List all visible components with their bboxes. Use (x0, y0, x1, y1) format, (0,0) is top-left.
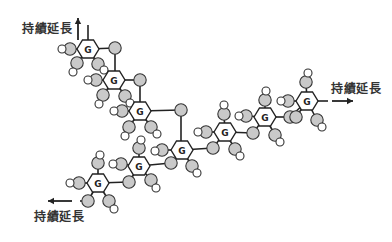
gray-residue (82, 195, 94, 207)
gray-residue (71, 57, 83, 69)
white-residue (152, 184, 160, 192)
gray-residue (109, 42, 121, 54)
white-residue (95, 100, 103, 108)
gray-residue (259, 94, 271, 106)
white-residue (96, 151, 104, 159)
elongation-label-bottom-left: 持績延長 (34, 207, 84, 224)
white-residue (58, 45, 66, 53)
gray-residue (165, 157, 177, 169)
arrowhead-icon (75, 18, 81, 24)
white-residue (235, 112, 243, 120)
white-residue (110, 205, 118, 213)
glucose-chain-diagram: GGGGGGGGG (0, 0, 392, 242)
gray-residue (123, 176, 135, 188)
arrowhead-icon (48, 198, 54, 204)
gray-residue (207, 142, 219, 154)
glucose-label: G (110, 76, 117, 86)
elongation-label-right: 持績延長 (331, 79, 381, 96)
white-residue (151, 147, 159, 155)
gray-residue (97, 89, 109, 101)
white-residue (193, 169, 201, 177)
gray-residue (73, 177, 85, 189)
white-residue (277, 97, 285, 105)
glucose-label: G (94, 179, 101, 189)
white-residue (236, 152, 244, 160)
white-residue (110, 107, 118, 115)
white-residue (84, 76, 92, 84)
white-residue (220, 101, 228, 109)
white-residue (318, 123, 326, 131)
gray-residue (218, 108, 230, 120)
gray-residue (134, 74, 146, 86)
gray-residue (123, 121, 135, 133)
white-residue (262, 87, 270, 95)
glucose-label: G (84, 45, 91, 55)
white-residue (304, 69, 312, 77)
white-residue (137, 136, 145, 144)
gray-residue (175, 104, 187, 116)
glucose-label: G (221, 128, 228, 138)
gray-residue (290, 111, 302, 123)
glucose-label: G (135, 162, 142, 172)
white-residue (121, 132, 129, 140)
glucose-label: G (261, 113, 268, 123)
white-residue (66, 179, 74, 187)
white-residue (194, 128, 202, 136)
white-residue (276, 138, 284, 146)
white-residue (153, 130, 161, 138)
glucose-label: G (178, 146, 185, 156)
arrowhead-icon (347, 98, 353, 104)
white-residue (109, 160, 117, 168)
gray-residue (247, 127, 259, 139)
gray-residue (300, 76, 312, 88)
glucose-label: G (136, 107, 143, 117)
elongation-label-top-left: 持績延長 (22, 19, 72, 36)
white-residue (69, 68, 77, 76)
glucose-label: G (303, 97, 310, 107)
